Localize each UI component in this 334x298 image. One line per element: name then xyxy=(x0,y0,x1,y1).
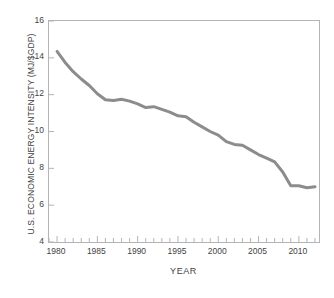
y-tick-label: 12 xyxy=(22,89,44,98)
chart-figure: U.S. ECONOMIC ENERGY INTENSITY (MJ/$GDP)… xyxy=(0,0,334,298)
x-tick-label: 1990 xyxy=(120,247,154,256)
y-tick-label: 8 xyxy=(22,163,44,172)
plot-area xyxy=(48,20,320,243)
chart-canvas xyxy=(49,21,319,242)
y-tick-label: 14 xyxy=(22,52,44,61)
x-axis-label: YEAR xyxy=(48,266,319,276)
x-tick-label: 1995 xyxy=(160,247,194,256)
data-line-series-0 xyxy=(57,51,315,187)
x-axis-major-ticks xyxy=(57,236,299,242)
x-tick-label: 2010 xyxy=(281,247,315,256)
x-tick-label: 1985 xyxy=(79,247,113,256)
x-tick-label: 1980 xyxy=(39,247,73,256)
y-axis-major-ticks xyxy=(49,21,54,242)
y-tick-label: 16 xyxy=(22,16,44,25)
x-tick-label: 2005 xyxy=(241,247,275,256)
y-tick-label: 4 xyxy=(22,237,44,246)
y-tick-label: 10 xyxy=(22,126,44,135)
y-tick-label: 6 xyxy=(22,200,44,209)
x-axis-minor-ticks xyxy=(49,238,315,242)
x-tick-label: 2000 xyxy=(200,247,234,256)
